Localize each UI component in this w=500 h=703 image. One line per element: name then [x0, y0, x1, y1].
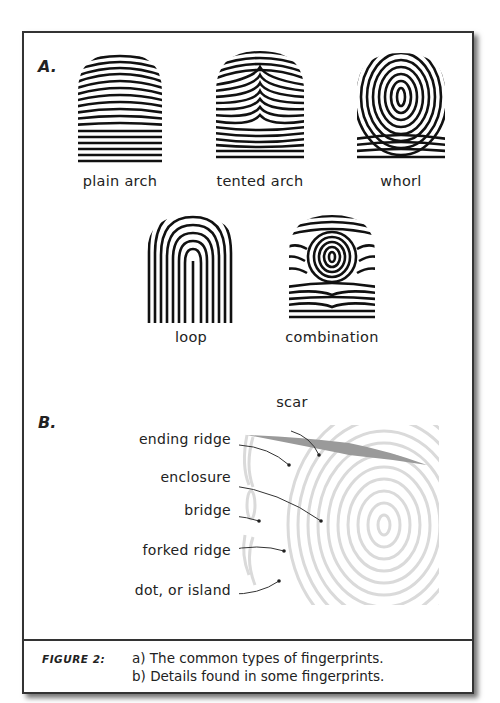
scar-mark	[247, 435, 427, 465]
caption-divider	[24, 639, 472, 641]
whorl-fingerprint	[355, 51, 447, 163]
ending-ridge-label: ending ridge	[51, 431, 231, 447]
figure-caption-label: FIGURE 2:	[42, 653, 105, 665]
loop-fingerprint	[145, 213, 237, 325]
dot-or-island-label: dot, or island	[51, 582, 231, 598]
caption-line-b: b) Details found in some fingerprints.	[132, 668, 384, 684]
section-a-letter: A.	[38, 57, 57, 76]
plain-arch-label: plain arch	[55, 173, 185, 189]
tented-arch-fingerprint	[214, 49, 306, 165]
forked-ridge-label: forked ridge	[51, 542, 231, 558]
scar-label: scar	[262, 394, 322, 410]
plain-arch-fingerprint	[74, 51, 166, 165]
bridge-label: bridge	[51, 502, 231, 518]
whorl-label: whorl	[336, 173, 466, 189]
section-b-letter: B.	[38, 413, 56, 432]
combination-fingerprint	[287, 213, 377, 325]
detail-annotations	[239, 425, 439, 605]
loop-label: loop	[126, 329, 256, 345]
figure-frame: A. plain arch	[22, 31, 474, 694]
combination-label: combination	[267, 329, 397, 345]
tented-arch-label: tented arch	[195, 173, 325, 189]
caption-line-a: a) The common types of fingerprints.	[132, 650, 384, 666]
enclosure-label: enclosure	[51, 469, 231, 485]
